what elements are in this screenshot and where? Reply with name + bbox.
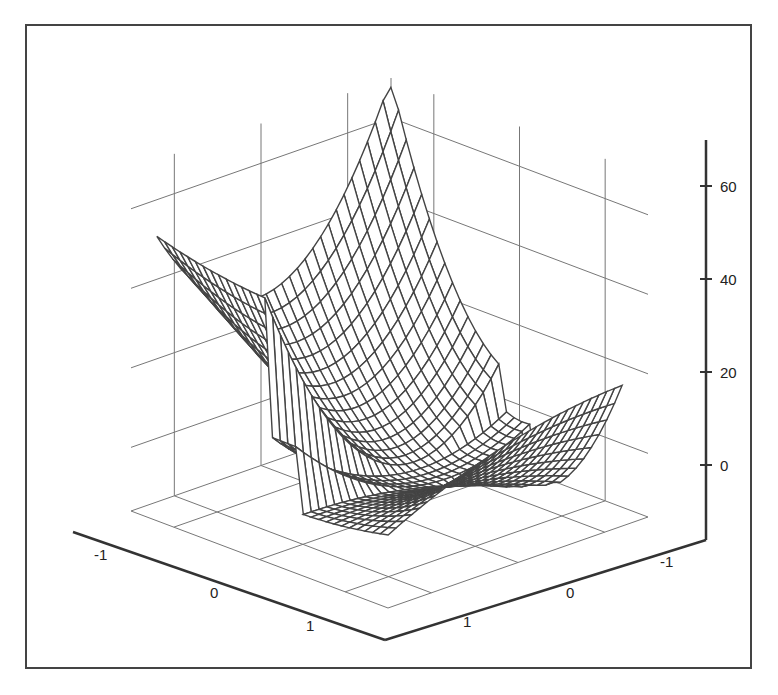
- y-tick-label: 1: [463, 613, 471, 630]
- x-tick-label: 0: [210, 584, 218, 601]
- surface-plot: 0204060-101-101: [0, 0, 778, 695]
- z-tick-label: 40: [720, 271, 737, 288]
- y-tick-label: 0: [566, 584, 574, 601]
- box-edge: [388, 517, 648, 608]
- x-tick-label: -1: [94, 546, 107, 563]
- y-tick-label: -1: [660, 553, 673, 570]
- y-axis: [385, 540, 706, 640]
- wireframe-surface: [157, 87, 622, 535]
- z-tick-label: 60: [720, 178, 737, 195]
- x-tick-label: 1: [306, 617, 314, 634]
- z-tick-label: 0: [720, 457, 728, 474]
- z-tick-label: 20: [720, 364, 737, 381]
